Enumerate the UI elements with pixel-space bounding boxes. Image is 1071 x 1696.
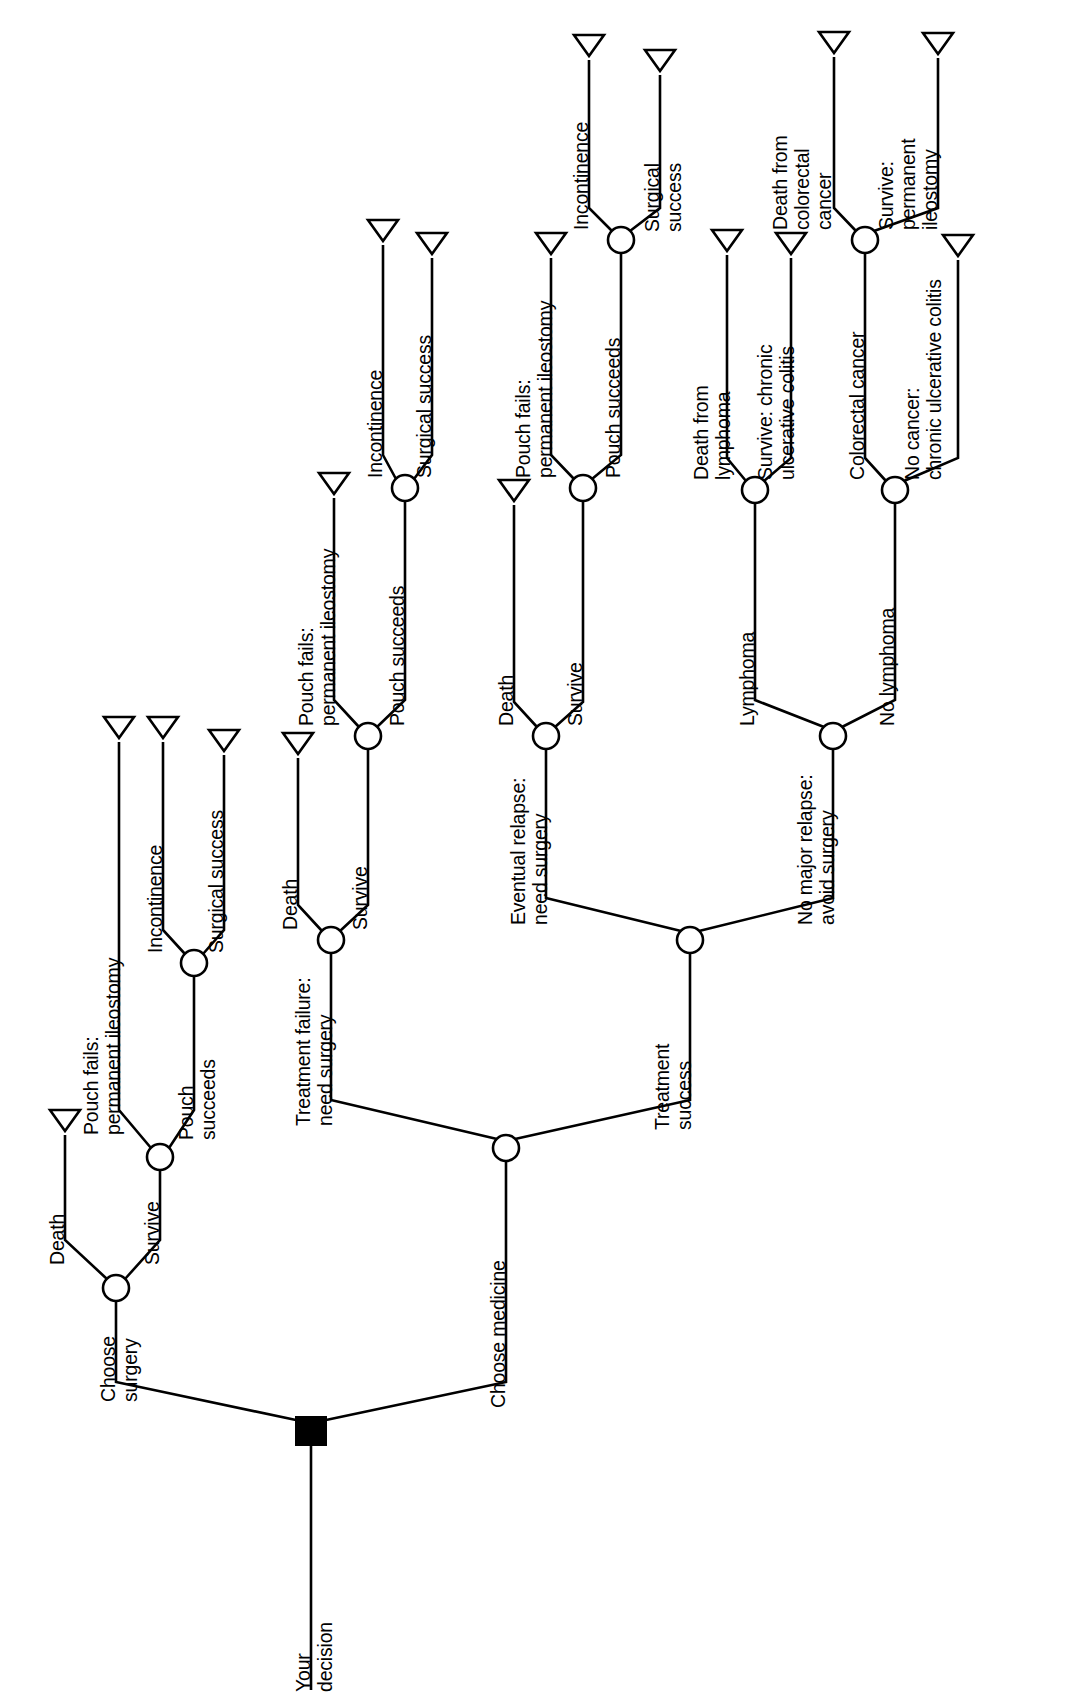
label-your-decision: Your decision — [293, 1622, 337, 1692]
terminal-lymphoma-survive — [776, 233, 806, 254]
label-no-lymphoma: No lymphoma — [877, 608, 899, 726]
label-tf-incontinence: Incontinence — [365, 370, 387, 478]
terminal-tf-surgical-success — [417, 233, 447, 254]
label-tf-surgical-success: Surgical success — [414, 335, 436, 478]
branch-surgery-death — [65, 1135, 107, 1279]
label-no-major-relapse: No major relapse: avoid surgery — [795, 775, 839, 926]
terminal-tf-pouch-fails — [319, 473, 349, 494]
label-choose-surgery: Choose surgery — [98, 1336, 142, 1402]
label-lymphoma: Lymphoma — [737, 632, 759, 726]
terminal-tf-incontinence — [368, 220, 398, 241]
branch-choose-surgery — [116, 1300, 296, 1420]
label-surgery-surgical-success: Surgical success — [206, 810, 228, 953]
label-relapse-incontinence: Incontinence — [571, 122, 593, 230]
branch-treatment-failure — [331, 952, 497, 1139]
label-surgery-pouch-succeeds: Pouch succeeds — [176, 1059, 220, 1140]
branch-cc-death — [834, 57, 856, 231]
label-colorectal-cancer: Colorectal cancer — [847, 332, 869, 480]
label-relapse-surgical-success: Surgical success — [642, 163, 686, 232]
label-relapse-survive: Survive — [565, 662, 587, 726]
label-relapse-pouch-fails: Pouch fails: permanent ileostomy — [513, 301, 557, 478]
label-surgery-survive: Survive — [142, 1201, 164, 1265]
label-choose-medicine: Choose medicine — [488, 1260, 510, 1408]
terminal-surgery-death — [50, 1110, 80, 1131]
label-tf-pouch-fails: Pouch fails: permanent ileostomy — [296, 549, 340, 726]
label-cc-death: Death from colorectal cancer — [770, 136, 835, 230]
terminal-cc-death — [819, 32, 849, 53]
label-treatment-failure: Treatment failure: need surgery — [293, 978, 337, 1127]
label-tf-pouch-succeeds: Pouch succeeds — [387, 586, 409, 726]
label-relapse-death: Death — [496, 675, 518, 726]
terminal-lymphoma-death — [712, 230, 742, 251]
terminal-relapse-pouch-fails — [536, 233, 566, 254]
terminal-cc-survive — [923, 33, 953, 54]
label-relapse-pouch-succeeds: Pouch succeeds — [603, 338, 625, 478]
branch-lymphoma — [755, 502, 824, 727]
label-surgery-incontinence: Incontinence — [145, 845, 167, 953]
terminal-surgery-surgical-success — [209, 730, 239, 751]
label-lymphoma-death: Death from lymphoma — [691, 386, 735, 480]
label-no-cancer: No cancer: chronic ulcerative colitis — [902, 279, 946, 480]
label-eventual-relapse: Eventual relapse: need surgery — [508, 778, 552, 925]
label-tf-death: Death — [280, 879, 302, 930]
root-decision-node — [296, 1417, 326, 1445]
terminal-surgery-incontinence — [148, 717, 178, 738]
label-treatment-success: Treatment success — [652, 1044, 696, 1130]
decision-tree-diagram: Your decision Choose surgery Choose medi… — [0, 0, 1071, 1696]
branch-choose-medicine — [326, 1160, 506, 1420]
terminal-relapse-incontinence — [574, 35, 604, 56]
terminal-surgery-pouch-fails — [104, 717, 134, 738]
branch-eventual-relapse — [546, 748, 681, 931]
terminal-no-cancer — [943, 235, 973, 256]
label-lymphoma-survive: Survive: chronic ulcerative colitis — [755, 344, 799, 480]
label-surgery-death: Death — [47, 1214, 69, 1265]
terminal-relapse-death — [499, 480, 529, 501]
terminal-relapse-surgical-success — [645, 50, 675, 71]
terminal-tf-death — [283, 733, 313, 754]
label-tf-survive: Survive — [350, 866, 372, 930]
label-cc-survive: Survive: permanent ileostomy — [876, 139, 941, 230]
label-surgery-pouch-fails: Pouch fails: permanent ileostomy — [81, 958, 125, 1135]
